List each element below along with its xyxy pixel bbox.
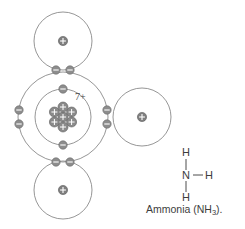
nucleon [49,117,59,127]
caption-main-text: Ammonia (NH [146,203,212,215]
nucleon [58,122,68,132]
nucleon [67,117,77,127]
figure-canvas: 7+ [0,0,245,229]
inner-shell-electron [59,85,67,93]
hydrogen-top-proton [58,36,67,45]
bonding-pair-electron-top-right [66,66,74,74]
nucleus-charge-label: 7+ [75,91,86,102]
hydrogen-right-proton [137,112,146,121]
inner-shell-electron [59,141,67,149]
bonding-pair-electron-right-lower [103,120,111,128]
nucleon [49,107,59,117]
formula-nitrogen: N [182,170,190,181]
bonding-pair-electron-top-left [52,66,60,74]
caption-tail-text: ). [216,203,222,215]
hydrogen-bottom-proton [58,185,67,194]
formula-hydrogen-bottom: H [182,192,190,203]
nucleon [58,112,68,122]
lone-pair-electron-left-upper [15,106,23,114]
lone-pair-electron-left-lower [15,120,23,128]
formula-hydrogen-right: H [205,170,213,181]
nucleon [58,102,68,112]
bonding-pair-electron-bottom-right [66,158,74,166]
nucleon [67,107,77,117]
bonding-pair-electron-right-upper [103,106,111,114]
formula-hydrogen-top: H [182,147,190,158]
figure-caption: Ammonia (NH3). [146,203,245,217]
nitrogen-nucleus [49,102,76,132]
ammonia-bonding-diagram: 7+ [0,0,245,229]
bonding-pair-electron-bottom-left [52,158,60,166]
